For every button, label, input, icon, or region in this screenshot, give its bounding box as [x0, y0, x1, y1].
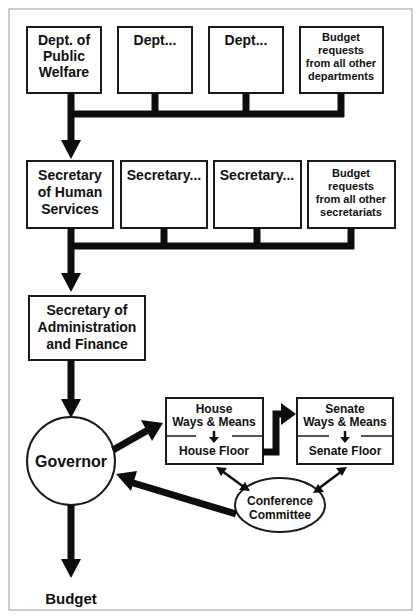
dept-label-line: from all other [306, 57, 377, 69]
dept-box-2: Dept... [118, 27, 192, 93]
secretary-label-line: Secretary... [220, 167, 294, 183]
senate-label-line: Ways & Means [303, 415, 387, 429]
dept-label-line: departments [308, 70, 374, 82]
senate-floor-label: Senate Floor [309, 444, 382, 458]
secretary-label-line: Secretary... [127, 167, 201, 183]
senate-box: Senate Ways & Means Senate Floor [297, 398, 393, 464]
conference-committee-node: Conference Committee [235, 478, 325, 532]
budget-flow-diagram: Dept. of Public Welfare Dept... Dept... … [0, 0, 419, 616]
secretary-admin-finance-box: Secretary of Administration and Finance [29, 296, 145, 360]
secretary-other-requests-box: Budget requests from all other secretari… [308, 161, 395, 228]
secretary-label-line: Budget [332, 167, 370, 179]
governor-node: Governor [27, 417, 115, 505]
dept-box-3: Dept... [209, 27, 283, 93]
secretary-label-line: from all other [316, 193, 387, 205]
dept-label-line: Dept... [134, 32, 177, 48]
secretary-label-line: secretariats [320, 206, 382, 218]
dept-label-line: Dept... [225, 32, 268, 48]
secretary-label-line: of Human [38, 184, 103, 200]
governor-label: Governor [35, 453, 107, 470]
dept-label-line: Budget [322, 31, 360, 43]
conference-label-line: Committee [249, 508, 311, 522]
dept-other-requests-box: Budget requests from all other departmen… [300, 27, 383, 93]
admin-label-line: Secretary of [47, 302, 128, 318]
dept-label-line: requests [318, 44, 364, 56]
secretary-label-line: requests [328, 180, 374, 192]
house-label-line: Ways & Means [172, 415, 256, 429]
dept-label-line: Dept. of [38, 32, 90, 48]
secretary-box-2: Secretary... [121, 161, 207, 228]
secretary-label-line: Services [41, 201, 99, 217]
house-label-line: House [196, 402, 233, 416]
conference-label-line: Conference [247, 494, 313, 508]
dept-public-welfare-box: Dept. of Public Welfare [27, 27, 101, 93]
admin-label-line: and Finance [46, 336, 128, 352]
budget-label: Budget [45, 590, 97, 607]
dept-label-line: Welfare [39, 64, 90, 80]
dept-label-line: Public [43, 48, 85, 64]
house-floor-label: House Floor [179, 444, 249, 458]
secretary-human-services-box: Secretary of Human Services [27, 161, 113, 228]
secretary-box-3: Secretary... [214, 161, 301, 228]
house-box: House Ways & Means House Floor [166, 398, 263, 464]
secretary-label-line: Secretary [38, 167, 102, 183]
admin-label-line: Administration [38, 319, 137, 335]
senate-label-line: Senate [325, 402, 365, 416]
